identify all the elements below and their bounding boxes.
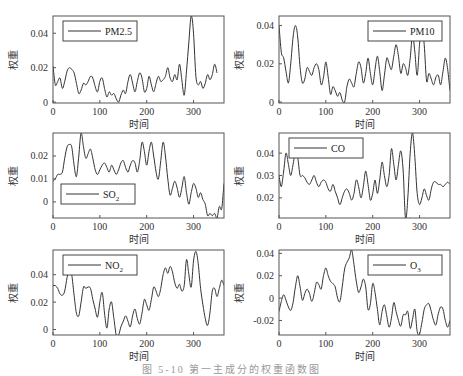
x-axis-label: 时间 <box>129 118 149 130</box>
x-tick-label: 300 <box>186 338 201 349</box>
y-axis-label: 权重 <box>7 166 19 186</box>
y-axis-label: 权重 <box>233 166 245 186</box>
x-axis-label: 时间 <box>355 233 375 245</box>
x-tick-label: 0 <box>51 106 56 117</box>
x-axis-label: 时间 <box>129 233 149 245</box>
panel-o3: 0100200300-0.0200.020.04时间权重O3 <box>233 248 450 362</box>
x-axis-label: 时间 <box>355 118 375 130</box>
legend: PM10 <box>368 21 442 41</box>
y-tick-label: 0.03 <box>257 170 275 181</box>
y-tick-label: 0.04 <box>257 20 275 31</box>
x-tick-label: 0 <box>51 338 56 349</box>
legend: NO2 <box>63 255 137 275</box>
x-tick-label: 100 <box>92 338 107 349</box>
x-tick-label: 100 <box>318 106 333 117</box>
x-tick-label: 300 <box>186 221 201 232</box>
y-tick-label: 0 <box>269 97 274 108</box>
x-tick-label: 300 <box>412 106 427 117</box>
y-tick-label: 0 <box>43 97 48 108</box>
x-tick-label: 200 <box>139 106 154 117</box>
legend: PM2.5 <box>63 21 137 41</box>
y-tick-label: 0 <box>43 196 48 207</box>
y-tick-label: 0.04 <box>31 269 49 280</box>
y-tick-label: 0.04 <box>31 28 49 39</box>
panel-so2: 010020030000.010.02时间权重SO2 <box>7 133 224 245</box>
x-tick-label: 0 <box>277 221 282 232</box>
y-tick-label: 0.01 <box>31 173 49 184</box>
x-tick-label: 200 <box>365 221 380 232</box>
y-tick-label: 0.02 <box>257 270 275 281</box>
x-tick-label: 300 <box>412 338 427 349</box>
y-axis-label: 权重 <box>233 283 245 303</box>
x-tick-label: 0 <box>277 338 282 349</box>
y-tick-label: -0.02 <box>253 315 274 326</box>
x-tick-label: 300 <box>412 221 427 232</box>
figure-caption: 图 5-10 第一主成分的权重函数图 <box>0 361 463 376</box>
axes-frame <box>53 133 224 218</box>
x-tick-label: 0 <box>51 221 56 232</box>
legend-label: PM10 <box>410 26 434 37</box>
legend-label: CO <box>331 143 345 154</box>
legend: CO <box>289 138 363 158</box>
y-tick-label: 0.02 <box>31 297 49 308</box>
y-tick-label: 0.02 <box>31 62 49 73</box>
x-tick-label: 200 <box>139 338 154 349</box>
legend: SO2 <box>61 184 135 204</box>
panel-pm25: 010020030000.020.04时间权重PM2.5 <box>7 16 224 130</box>
y-tick-label: 0.04 <box>257 248 275 259</box>
x-tick-label: 100 <box>92 106 107 117</box>
y-tick-label: 0 <box>269 293 274 304</box>
y-tick-label: 0.02 <box>31 150 49 161</box>
panel-pm10: 010020030000.020.04时间权重PM10 <box>233 16 450 130</box>
x-tick-label: 0 <box>277 106 282 117</box>
x-tick-label: 200 <box>139 221 154 232</box>
x-tick-label: 100 <box>318 221 333 232</box>
panel-no2: 010020030000.020.04时间权重NO2 <box>7 250 224 362</box>
y-axis-label: 权重 <box>7 50 19 70</box>
x-tick-label: 100 <box>318 338 333 349</box>
y-tick-label: 0.02 <box>257 192 275 203</box>
x-tick-label: 200 <box>365 106 380 117</box>
legend: O3 <box>368 255 442 275</box>
panel-co: 01002003000.020.030.04时间权重CO <box>233 133 450 245</box>
y-tick-label: 0.02 <box>257 58 275 69</box>
y-axis-label: 权重 <box>7 283 19 303</box>
x-tick-label: 100 <box>92 221 107 232</box>
legend-label: PM2.5 <box>105 26 132 37</box>
x-tick-label: 300 <box>186 106 201 117</box>
x-tick-label: 200 <box>365 338 380 349</box>
y-tick-label: 0.04 <box>257 148 275 159</box>
data-series-line <box>53 133 224 218</box>
y-tick-label: 0 <box>43 324 48 335</box>
y-axis-label: 权重 <box>233 50 245 70</box>
